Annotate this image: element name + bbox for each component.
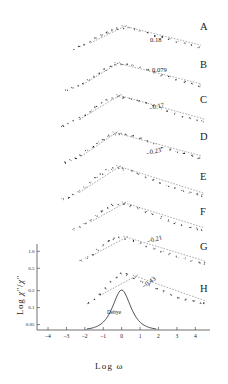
data-point <box>176 256 177 257</box>
y-axis-ticks: 1.00.50.20.10.05 <box>26 249 40 327</box>
data-point <box>117 97 118 98</box>
data-point <box>113 134 114 135</box>
low-frequency-guide-line <box>92 236 129 256</box>
data-point <box>152 179 153 180</box>
debye-reference-label: Debye <box>107 310 121 315</box>
data-point <box>113 239 114 240</box>
data-point <box>116 277 117 278</box>
data-point <box>155 248 156 249</box>
data-point <box>146 211 147 212</box>
data-point <box>119 133 120 134</box>
data-point <box>80 155 81 156</box>
data-point <box>145 211 146 212</box>
data-point <box>80 227 81 228</box>
data-point <box>169 253 170 254</box>
chi-symbol-numerator: χ <box>15 291 25 296</box>
data-point <box>204 264 205 265</box>
curve-e <box>61 165 204 200</box>
data-point <box>113 167 114 168</box>
data-point <box>162 37 163 38</box>
y-tick-label: 0.05 <box>26 322 35 327</box>
data-point <box>72 194 73 195</box>
data-point <box>85 223 86 224</box>
data-point <box>120 133 121 134</box>
data-point <box>201 229 202 230</box>
data-point <box>183 191 184 192</box>
data-point <box>86 187 87 188</box>
data-point <box>111 169 112 170</box>
data-point <box>146 102 147 103</box>
data-point <box>95 215 96 216</box>
data-point <box>129 206 130 207</box>
data-point <box>120 63 121 64</box>
data-point <box>126 135 127 136</box>
data-point <box>139 67 140 68</box>
data-point <box>169 254 170 255</box>
data-point <box>101 102 102 103</box>
data-point <box>159 183 160 184</box>
data-point <box>99 294 100 295</box>
data-point <box>94 77 95 78</box>
data-point <box>116 27 117 28</box>
data-point <box>83 223 84 224</box>
data-point <box>103 139 104 140</box>
data-point <box>168 219 169 220</box>
data-point <box>139 31 140 32</box>
data-point <box>78 191 79 192</box>
low-frequency-guide-line <box>79 165 122 193</box>
data-point <box>162 147 163 148</box>
data-point <box>127 273 128 274</box>
low-frequency-guide-line <box>90 25 127 43</box>
data-point <box>153 247 154 248</box>
data-point <box>137 173 138 174</box>
data-point <box>163 291 164 292</box>
data-point <box>133 65 134 66</box>
data-point <box>98 73 99 74</box>
curve-letter-h: H <box>200 283 208 294</box>
slope-annotation: 0.18 <box>150 36 162 43</box>
data-point <box>74 230 75 231</box>
data-point <box>203 121 204 122</box>
data-point <box>177 151 178 152</box>
data-point <box>98 250 99 251</box>
data-point <box>123 203 124 204</box>
data-point <box>201 196 202 197</box>
data-point <box>122 64 123 65</box>
data-point <box>82 83 83 84</box>
data-point <box>160 251 161 252</box>
data-point <box>192 155 193 156</box>
data-point <box>171 295 172 296</box>
x-axis-title: Log ω <box>95 362 124 371</box>
data-point <box>108 240 109 241</box>
data-point <box>84 115 85 116</box>
data-point <box>161 109 162 110</box>
data-point <box>133 278 134 279</box>
data-point <box>78 46 79 47</box>
slope-annotation: –0.23 <box>145 146 163 156</box>
data-point <box>108 134 109 135</box>
data-point <box>96 37 97 38</box>
data-point <box>201 230 202 231</box>
data-point <box>153 214 154 215</box>
slope-annotation: 0.079 <box>152 66 168 73</box>
data-point <box>133 240 134 241</box>
data-point <box>191 260 192 261</box>
data-point <box>139 100 140 101</box>
data-point <box>65 89 66 90</box>
data-point <box>87 303 88 304</box>
data-point <box>192 156 193 157</box>
low-frequency-guide-line <box>81 131 118 156</box>
data-point <box>163 251 164 252</box>
data-point <box>102 34 103 35</box>
data-point <box>119 134 120 135</box>
data-point <box>185 259 186 260</box>
data-point <box>79 190 80 191</box>
data-point <box>129 98 130 99</box>
high-frequency-guide-line <box>123 236 206 261</box>
data-point <box>89 42 90 43</box>
data-point <box>168 186 169 187</box>
data-point <box>111 31 112 32</box>
slope-annotation: –0.17 <box>148 101 166 111</box>
data-point <box>117 204 118 205</box>
data-point <box>200 302 201 303</box>
